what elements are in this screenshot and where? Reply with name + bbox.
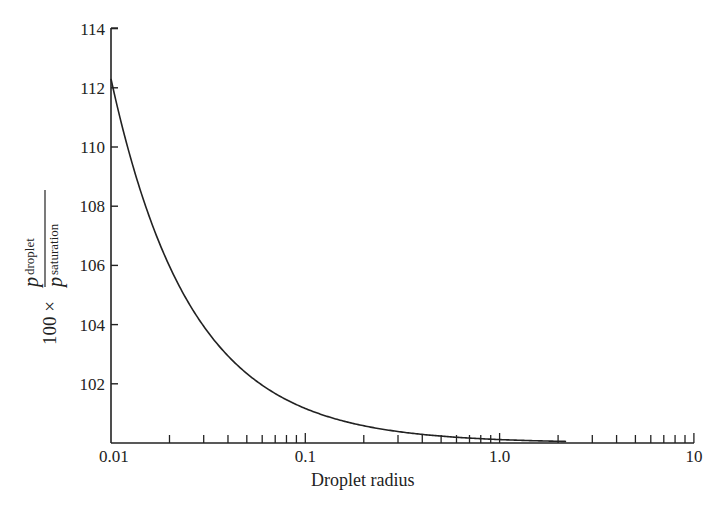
y-tick-label: 104: [80, 316, 106, 335]
y-tick-label: 106: [80, 256, 106, 275]
y-axis-title-numerator-sub: droplet: [22, 238, 37, 275]
y-tick-label: 110: [80, 138, 105, 157]
x-axis-ticks: 0.010.11.010: [99, 433, 702, 466]
y-axis-title-denominator: p: [44, 277, 67, 289]
y-axis-title-prefix: 100 ×: [39, 301, 60, 345]
data-curve: [111, 79, 566, 442]
y-tick-label: 112: [80, 79, 105, 98]
chart: 102104106108110112114 0.010.11.010 Dropl…: [0, 0, 720, 511]
y-tick-label: 102: [80, 375, 106, 394]
y-tick-label: 114: [80, 20, 105, 39]
x-tick-label: 10: [685, 447, 702, 466]
y-axis-title: 100 × p droplet p saturation: [20, 190, 67, 345]
x-tick-label: 0.1: [295, 447, 316, 466]
y-axis-title-denominator-sub: saturation: [46, 223, 61, 275]
y-axis-ticks: 102104106108110112114: [80, 20, 119, 394]
x-axis-title: Droplet radius: [311, 470, 414, 490]
x-tick-label: 1.0: [489, 447, 510, 466]
plot-area: 102104106108110112114 0.010.11.010: [80, 20, 703, 466]
y-axis-title-numerator: p: [20, 277, 43, 289]
x-tick-label: 0.01: [99, 447, 129, 466]
y-tick-label: 108: [80, 197, 106, 216]
